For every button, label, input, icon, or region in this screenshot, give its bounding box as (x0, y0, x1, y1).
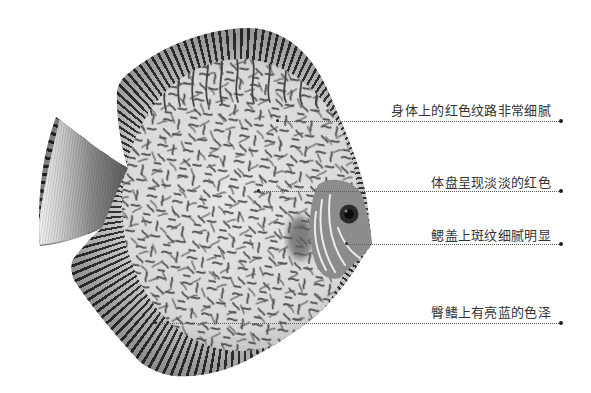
annotation-label: 体盘呈现淡淡的红色 (431, 176, 551, 189)
discus-fish-illustration (0, 0, 591, 393)
leader-line (346, 244, 561, 245)
leader-end-dot (559, 321, 563, 325)
fish-pectoral-fin (287, 216, 313, 260)
leader-end-dot (559, 189, 563, 193)
leader-end-dot (559, 119, 563, 123)
leader-start-dot (276, 119, 279, 122)
annotation-label: 鳃盖上斑纹细腻明显 (431, 229, 551, 242)
leader-start-dot (257, 189, 260, 192)
leader-line (258, 191, 561, 192)
fish-eye (340, 205, 359, 224)
annotation-label: 臀鳍上有亮蓝的色泽 (431, 306, 551, 319)
fish-detail-layer (0, 0, 591, 393)
leader-line (155, 323, 561, 324)
leader-start-dot (345, 242, 348, 245)
leader-start-dot (154, 321, 157, 324)
fish-gill-cover (310, 180, 373, 279)
leader-line (277, 121, 561, 122)
annotation-label: 身体上的红色纹路非常细腻 (391, 104, 551, 117)
leader-end-dot (559, 242, 563, 246)
fish-tail-fin (37, 118, 128, 245)
